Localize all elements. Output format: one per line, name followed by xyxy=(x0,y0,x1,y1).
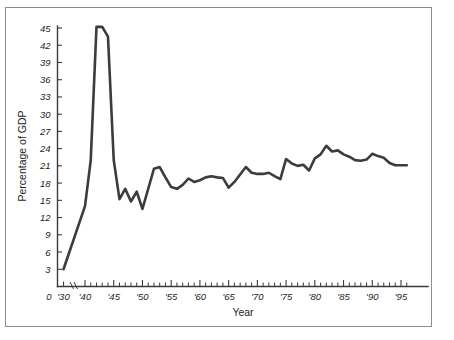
x-tick-label-65: '65 xyxy=(222,291,235,302)
y-tick-label-3: 3 xyxy=(45,264,51,275)
x-tick-label-55: '55 xyxy=(165,291,178,302)
y-tick-label-18: 18 xyxy=(40,178,51,189)
x-tick-label-70: '70 xyxy=(251,291,264,302)
y-tick-label-24: 24 xyxy=(39,143,51,154)
y-tick-label-12: 12 xyxy=(40,212,51,223)
x-axis-tick-labels: '30'40'45'50'55'60'65'70'75'80'85'90'95 xyxy=(57,291,408,302)
chart-figure: 0369121518212427303336394245 '30'40'45'5… xyxy=(0,0,454,340)
x-axis-break-mark xyxy=(70,282,78,289)
x-tick-label-75: '75 xyxy=(280,291,293,302)
y-tick-label-39: 39 xyxy=(40,57,51,68)
data-series-line xyxy=(64,27,407,269)
y-tick-label-45: 45 xyxy=(40,23,51,34)
y-tick-label-42: 42 xyxy=(40,40,51,51)
y-axis-tick-labels: 0369121518212427303336394245 xyxy=(39,23,52,302)
line-chart: 0369121518212427303336394245 '30'40'45'5… xyxy=(0,0,454,340)
y-tick-label-15: 15 xyxy=(40,195,51,206)
x-axis-major-ticks xyxy=(85,280,401,287)
y-tick-label-0: 0 xyxy=(46,291,52,302)
y-tick-label-33: 33 xyxy=(40,91,51,102)
y-tick-label-21: 21 xyxy=(39,160,51,171)
y-tick-label-30: 30 xyxy=(40,109,51,120)
x-tick-label-80: '80 xyxy=(309,291,322,302)
x-tick-label-90: '90 xyxy=(366,291,379,302)
y-axis-title: Percentage of GDP xyxy=(16,110,28,201)
x-tick-label-45: '45 xyxy=(108,291,121,302)
y-tick-label-36: 36 xyxy=(40,74,51,85)
x-tick-label-30: '30 xyxy=(57,291,70,302)
x-axis-title: Year xyxy=(232,306,254,318)
x-tick-label-85: '85 xyxy=(337,291,350,302)
x-tick-label-50: '50 xyxy=(136,291,149,302)
x-tick-label-60: '60 xyxy=(194,291,207,302)
y-tick-label-9: 9 xyxy=(45,229,51,240)
y-tick-label-27: 27 xyxy=(39,126,51,137)
x-axis-minor-ticks xyxy=(64,282,407,287)
x-tick-label-40: '40 xyxy=(79,291,92,302)
x-tick-label-95: '95 xyxy=(395,291,408,302)
y-tick-label-6: 6 xyxy=(45,247,51,258)
